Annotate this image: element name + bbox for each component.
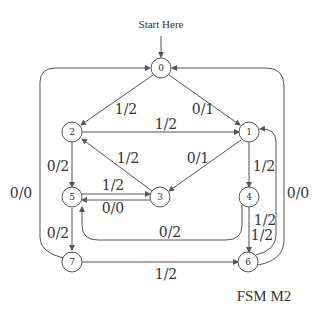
svg-text:0: 0: [158, 63, 164, 73]
edge-label-1-3: 0/1: [187, 150, 210, 166]
edge-label-1-4: 1/2: [253, 158, 276, 174]
edge-label-3-2: 1/2: [117, 150, 140, 166]
edge-label-7-0: 0/0: [10, 185, 33, 201]
state-0: 0: [151, 58, 171, 78]
edge-label-5-3: 1/2: [102, 177, 125, 193]
edge-label-7-6: 1/2: [155, 266, 178, 282]
edge-label-4-6: 1/2: [254, 212, 277, 228]
edge-label-5-7: 0/2: [47, 225, 70, 241]
svg-text:1: 1: [246, 127, 252, 137]
state-4: 4: [239, 187, 259, 207]
state-6: 6: [238, 252, 258, 272]
fsm-diagram: Start Here 1/2 0/1 1/2 0/2 1/2 0/1 1/2 1…: [0, 0, 321, 317]
svg-text:5: 5: [69, 192, 75, 202]
edge-label-2-1: 1/2: [155, 116, 178, 132]
state-7: 7: [62, 252, 82, 272]
state-3: 3: [150, 187, 170, 207]
edge-label-4-5: 0/2: [159, 224, 182, 240]
svg-text:3: 3: [157, 192, 163, 202]
edge-0-1: [169, 75, 240, 125]
svg-text:7: 7: [69, 257, 75, 267]
state-1: 1: [239, 122, 259, 142]
edge-label-3-5: 0/0: [102, 200, 125, 216]
edge-label-0-1: 0/1: [192, 101, 215, 117]
state-5: 5: [62, 187, 82, 207]
svg-text:4: 4: [246, 192, 252, 202]
edge-label-6-0: 0/0: [287, 185, 310, 201]
edge-label-0-2: 1/2: [115, 101, 138, 117]
diagram-caption: FSM M2: [237, 288, 292, 304]
edge-label-2-5: 0/2: [47, 158, 70, 174]
edge-0-2: [81, 75, 153, 125]
edge-label-6-1: 1/2: [251, 227, 274, 243]
start-label: Start Here: [139, 18, 184, 30]
svg-text:6: 6: [245, 257, 251, 267]
svg-text:2: 2: [69, 127, 75, 137]
state-2: 2: [62, 122, 82, 142]
